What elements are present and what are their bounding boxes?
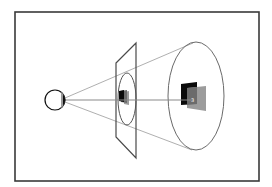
eye-icon — [45, 90, 65, 110]
object-label: 3 — [191, 97, 194, 103]
perspective-diagram: 3 — [0, 0, 272, 187]
